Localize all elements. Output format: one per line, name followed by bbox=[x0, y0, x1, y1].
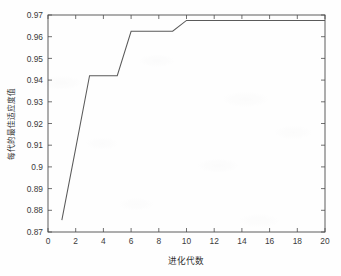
y-tick-label: 0.91 bbox=[27, 140, 44, 150]
y-tick-label: 0.89 bbox=[27, 184, 44, 194]
y-axis-ticks: 0.870.880.890.90.910.920.930.940.950.960… bbox=[27, 10, 325, 237]
x-tick-label: 6 bbox=[129, 236, 134, 246]
x-tick-label: 18 bbox=[293, 236, 303, 246]
x-axis-label: 进化代数 bbox=[168, 255, 204, 266]
y-tick-label: 0.97 bbox=[27, 10, 44, 20]
y-tick-label: 0.96 bbox=[27, 32, 44, 42]
x-tick-label: 2 bbox=[73, 236, 78, 246]
chart-figure: 0.870.880.890.90.910.920.930.940.950.960… bbox=[0, 0, 341, 276]
x-tick-label: 12 bbox=[210, 236, 220, 246]
y-tick-label: 0.95 bbox=[27, 54, 44, 64]
x-tick-label: 10 bbox=[182, 236, 192, 246]
y-tick-label: 0.9 bbox=[31, 162, 43, 172]
y-tick-label: 0.88 bbox=[27, 205, 44, 215]
fitness-convergence-chart: 0.870.880.890.90.910.920.930.940.950.960… bbox=[0, 0, 341, 276]
y-axis-label: 每代的最佳适应度值 bbox=[6, 88, 16, 160]
x-tick-label: 4 bbox=[101, 236, 106, 246]
y-tick-label: 0.94 bbox=[27, 75, 44, 85]
plot-box-frame bbox=[48, 15, 325, 232]
x-tick-label: 20 bbox=[320, 236, 330, 246]
x-tick-label: 0 bbox=[46, 236, 51, 246]
x-axis-ticks: 02468101214161820 bbox=[46, 15, 330, 246]
x-tick-label: 8 bbox=[156, 236, 161, 246]
y-tick-label: 0.87 bbox=[27, 227, 44, 237]
y-tick-label: 0.93 bbox=[27, 97, 44, 107]
y-tick-label: 0.92 bbox=[27, 119, 44, 129]
x-tick-label: 16 bbox=[265, 236, 275, 246]
fitness-series-line bbox=[62, 20, 325, 220]
x-tick-label: 14 bbox=[237, 236, 247, 246]
